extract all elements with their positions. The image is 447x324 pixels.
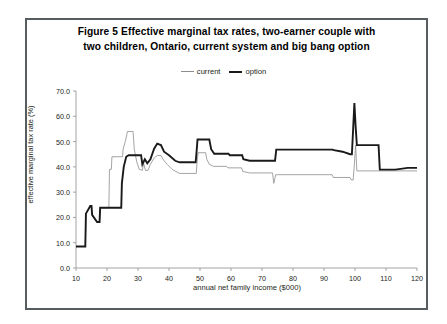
series-line-option	[76, 103, 417, 246]
figure-root: Figure 5 Effective marginal tax rates, t…	[0, 0, 447, 324]
y-tick-label: 40.0	[36, 162, 70, 171]
x-tick-label: 20	[103, 274, 111, 283]
y-tick-label: 0.0	[36, 264, 70, 273]
x-tick-label: 60	[227, 274, 235, 283]
y-tick-label: 50.0	[36, 137, 70, 146]
x-tick-label: 70	[258, 274, 266, 283]
x-tick-label: 30	[134, 274, 142, 283]
y-tick-label: 70.0	[36, 87, 70, 96]
series-line-current	[76, 131, 417, 246]
series-group	[76, 103, 417, 246]
y-axis-title: effective marginal tax rate (%)	[26, 80, 35, 230]
x-tick-label: 50	[196, 274, 204, 283]
plot-area: 0.010.020.030.040.050.060.070.0102030405…	[0, 0, 447, 324]
x-tick-label: 120	[411, 274, 423, 283]
x-tick-label: 110	[380, 274, 391, 283]
y-tick-label: 20.0	[36, 213, 70, 222]
x-tick-label: 40	[165, 274, 173, 283]
y-tick-label: 10.0	[36, 238, 70, 247]
x-tick-label: 80	[289, 274, 297, 283]
x-tick-label: 90	[320, 274, 328, 283]
x-tick-label: 10	[72, 274, 80, 283]
y-tick-label: 60.0	[36, 112, 70, 121]
x-axis-title: annual net family income ($000)	[76, 283, 418, 292]
y-tick-label: 30.0	[36, 188, 70, 197]
axes-group	[73, 91, 417, 271]
x-tick-label: 100	[349, 274, 361, 283]
